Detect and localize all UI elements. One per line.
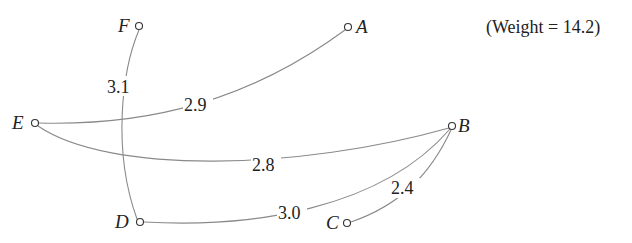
edge-weight-F-D: 3.1 [107, 77, 130, 97]
edge-E-B [38, 126, 449, 161]
node-E [32, 120, 39, 127]
node-F [136, 23, 143, 30]
node-A [345, 24, 352, 31]
node-label-B: B [458, 115, 470, 136]
edge-weight-E-A: 2.9 [184, 95, 207, 115]
node-label-C: C [326, 212, 339, 233]
node-C [344, 220, 351, 227]
node-label-E: E [11, 112, 24, 133]
edge-weight-E-B: 2.8 [252, 155, 275, 175]
node-label-D: D [114, 211, 129, 232]
node-label-F: F [117, 15, 130, 36]
edge-F-D [122, 30, 139, 219]
graph-diagram: 3.1 2.9 2.8 3.0 2.4 F A E B D C (Weight … [0, 0, 632, 243]
node-label-A: A [354, 16, 368, 37]
total-weight-label: (Weight = 14.2) [486, 17, 600, 38]
node-D [137, 219, 144, 226]
edge-weight-D-B: 3.0 [278, 203, 301, 223]
edge-weight-C-B: 2.4 [391, 178, 414, 198]
node-B [449, 123, 456, 130]
